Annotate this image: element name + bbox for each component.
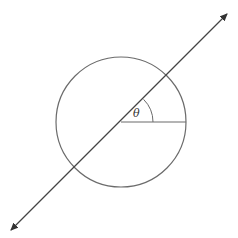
diagonal-line-with-arrows [11,14,227,230]
angle-arc [144,99,153,122]
diagram-canvas: θ [0,0,238,238]
angle-label-theta: θ [133,107,140,120]
